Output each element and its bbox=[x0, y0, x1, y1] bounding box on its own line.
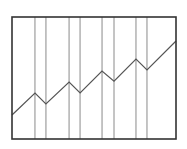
line-chart bbox=[0, 0, 187, 149]
vertical-gridlines bbox=[35, 17, 147, 139]
data-series-line bbox=[12, 41, 176, 115]
plot-frame bbox=[12, 17, 176, 139]
